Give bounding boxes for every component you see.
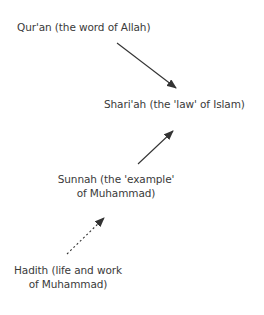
arrow-hadith-to-sunnah: [67, 218, 104, 254]
node-quran-text: Qur'an (the word of Allah): [17, 20, 150, 34]
arrow-sunnah-to-shariah: [138, 131, 173, 164]
node-sunnah: Sunnah (the 'example' of Muhammad): [56, 172, 176, 200]
node-hadith-line2: of Muhammad): [8, 277, 128, 291]
node-hadith: Hadith (life and work of Muhammad): [8, 263, 128, 291]
node-sunnah-line2: of Muhammad): [56, 186, 176, 200]
arrow-quran-to-shariah: [117, 43, 176, 88]
node-quran: Qur'an (the word of Allah): [17, 20, 150, 34]
node-sunnah-line1: Sunnah (the 'example': [56, 172, 176, 186]
node-shariah-text: Shari'ah (the 'law' of Islam): [104, 97, 245, 111]
node-hadith-line1: Hadith (life and work: [8, 263, 128, 277]
node-shariah: Shari'ah (the 'law' of Islam): [104, 97, 245, 111]
